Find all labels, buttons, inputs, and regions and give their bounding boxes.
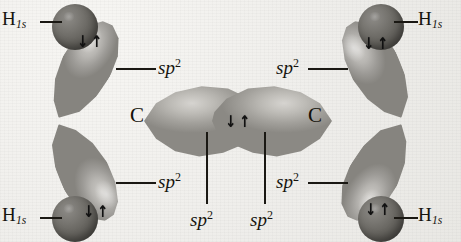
hydrogen-label-top-right-subscript: 1s	[432, 18, 442, 30]
hydrogen-label-top-right-element: H	[418, 8, 432, 29]
hydrogen-label-top-left: H1s	[2, 8, 26, 30]
arrow-down-icon: ↓	[77, 34, 88, 50]
hydrogen-label-bottom-right-element: H	[418, 204, 432, 225]
sp2-label-center-left: sp2	[190, 208, 213, 231]
hydrogen-label-bottom-left: H1s	[2, 204, 26, 226]
hydrogen-label-bottom-right: H1s	[418, 204, 442, 226]
hydrogen-label-top-right: H1s	[418, 8, 442, 30]
sp2-label-top-right-superscript: 2	[293, 56, 299, 70]
sp2-label-top-left-superscript: 2	[175, 56, 181, 70]
leader-line-sp2-bottom-right	[308, 182, 348, 184]
electron-pair-center: ↓ ↑	[224, 114, 252, 130]
hydrogen-label-top-left-element: H	[2, 8, 16, 29]
arrow-up-icon: ↑	[98, 204, 109, 220]
sp2-label-bottom-right-text: sp	[276, 171, 293, 192]
leader-line-sp2-top-left	[116, 68, 156, 70]
carbon-label-right-text: C	[308, 103, 322, 127]
arrow-down-icon: ↓	[83, 204, 94, 220]
leader-line-sp2-center-right	[264, 132, 266, 204]
arrow-down-icon: ↓	[363, 36, 374, 52]
sp2-label-center-right: sp2	[250, 208, 273, 231]
sp2-label-center-left-text: sp	[190, 209, 207, 230]
carbon-label-right: C	[308, 103, 322, 128]
sp2-label-top-left-text: sp	[158, 57, 175, 78]
leader-line-h-top-left	[40, 21, 62, 23]
hydrogen-label-bottom-left-element: H	[2, 204, 16, 225]
sp2-label-bottom-right: sp2	[276, 170, 299, 193]
leader-line-h-bottom-right	[394, 217, 418, 219]
carbon-label-left-text: C	[130, 103, 144, 127]
electron-pair-bottom-right: ↓ ↑	[364, 202, 392, 218]
sp2-label-top-left: sp2	[158, 56, 181, 79]
orbital-diagram-canvas: ↓ ↑ ↓ ↑ ↓ ↑ ↓ ↑ ↓ ↑ C C H1s H1s H1s H1s …	[0, 0, 461, 242]
electron-pair-bottom-left: ↓ ↑	[82, 204, 110, 220]
hydrogen-label-bottom-right-subscript: 1s	[432, 214, 442, 226]
arrow-down-icon: ↓	[225, 114, 236, 130]
sp2-label-top-right-text: sp	[276, 57, 293, 78]
electron-pair-top-right: ↓ ↑	[362, 36, 390, 52]
arrow-up-icon: ↑	[240, 114, 251, 130]
carbon-label-left: C	[130, 103, 144, 128]
sp2-label-center-right-text: sp	[250, 209, 267, 230]
leader-line-sp2-bottom-left	[116, 182, 156, 184]
hydrogen-label-top-left-subscript: 1s	[16, 18, 26, 30]
arrow-down-icon: ↓	[365, 202, 376, 218]
arrow-up-icon: ↑	[380, 202, 391, 218]
sp2-label-top-right: sp2	[276, 56, 299, 79]
sp2-label-bottom-left: sp2	[158, 170, 181, 193]
sp2-label-bottom-left-text: sp	[158, 171, 175, 192]
arrow-up-icon: ↑	[378, 36, 389, 52]
hydrogen-label-bottom-left-subscript: 1s	[16, 214, 26, 226]
leader-line-sp2-top-right	[308, 68, 348, 70]
sp2-label-bottom-right-superscript: 2	[293, 170, 299, 184]
leader-line-h-bottom-left	[40, 217, 62, 219]
leader-line-sp2-center-left	[206, 132, 208, 204]
arrow-up-icon: ↑	[92, 34, 103, 50]
electron-pair-top-left: ↓ ↑	[76, 34, 104, 50]
sp2-label-bottom-left-superscript: 2	[175, 170, 181, 184]
leader-line-h-top-right	[394, 21, 418, 23]
sp2-label-center-left-superscript: 2	[207, 208, 213, 222]
sp2-label-center-right-superscript: 2	[267, 208, 273, 222]
